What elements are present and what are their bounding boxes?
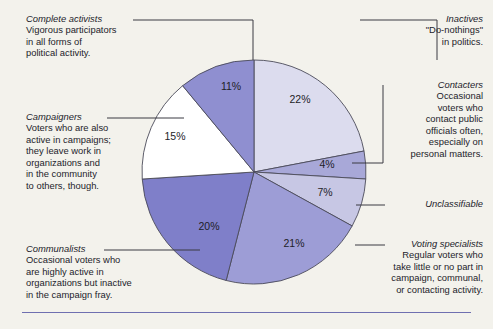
- pie-label-inactives: 22%: [289, 93, 310, 105]
- pie-label-contacters: 4%: [319, 158, 334, 170]
- callout-body-voting-specialists: Regular voters who take little or no par…: [343, 249, 483, 295]
- callout-body-complete-activists: Vigorous participators in all forms of p…: [26, 24, 176, 58]
- pie-label-voting-specialists: 21%: [283, 237, 304, 249]
- callout-title-campaigners: Campaigners: [26, 111, 178, 122]
- pie-label-unclassifiable: 7%: [317, 186, 332, 198]
- pie-label-complete-activists: 11%: [221, 80, 241, 92]
- callout-voting-specialists: Voting specialists Regular voters who ta…: [343, 238, 483, 295]
- callout-communalists: Communalists Occasional voters who are h…: [26, 243, 196, 300]
- callout-inactives: Inactives "Do-nothings" in politics.: [351, 13, 483, 47]
- callout-body-inactives: "Do-nothings" in politics.: [351, 24, 483, 47]
- callout-complete-activists: Complete activists Vigorous participator…: [26, 13, 176, 59]
- callout-title-voting-specialists: Voting specialists: [343, 238, 483, 249]
- callout-unclassifiable: Unclassifiable: [363, 198, 483, 209]
- callout-contacters: Contacters Occasional voters who contact…: [365, 79, 483, 159]
- callout-body-contacters: Occasional voters who contact public off…: [365, 90, 483, 159]
- callout-body-campaigners: Voters who are also active in campaigns;…: [26, 122, 178, 191]
- callout-title-unclassifiable: Unclassifiable: [363, 198, 483, 209]
- callout-title-inactives: Inactives: [351, 13, 483, 24]
- callout-title-complete-activists: Complete activists: [26, 13, 176, 24]
- callout-title-contacters: Contacters: [365, 79, 483, 90]
- bottom-rule: [22, 312, 471, 313]
- pie-label-communalists: 20%: [198, 220, 219, 232]
- callout-campaigners: Campaigners Voters who are also active i…: [26, 111, 178, 191]
- callout-title-communalists: Communalists: [26, 243, 196, 254]
- callout-body-communalists: Occasional voters who are highly active …: [26, 254, 196, 300]
